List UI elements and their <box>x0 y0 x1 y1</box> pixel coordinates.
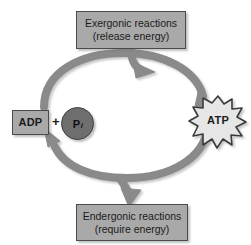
phosphate-subscript: i <box>81 121 83 130</box>
endergonic-line-2: (require energy) <box>95 223 170 236</box>
plus-sign: + <box>52 114 60 129</box>
upper-arc-arrow <box>44 53 203 107</box>
atp-adp-cycle-diagram: Exergonic reactions (release energy) End… <box>0 0 251 245</box>
exergonic-feed-arrowhead <box>133 62 155 78</box>
endergonic-reactions-box: Endergonic reactions (require energy) <box>76 204 188 241</box>
inorganic-phosphate-circle: Pi <box>61 107 94 140</box>
exergonic-reactions-box: Exergonic reactions (release energy) <box>76 11 186 49</box>
endergonic-line-1: Endergonic reactions <box>83 210 182 223</box>
adp-box: ADP <box>12 110 49 135</box>
exergonic-line-2: (release energy) <box>93 30 169 43</box>
phosphate-label: P <box>73 118 80 130</box>
exergonic-line-1: Exergonic reactions <box>85 17 177 30</box>
adp-label: ADP <box>19 116 43 129</box>
atp-label: ATP <box>199 114 237 126</box>
